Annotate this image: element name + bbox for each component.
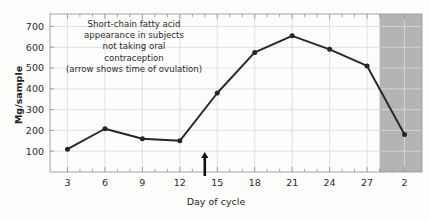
- data-point: [140, 136, 145, 141]
- y-axis-title: Mg/sample: [13, 66, 24, 124]
- data-point: [177, 138, 182, 143]
- chart-canvas: 100200300400500600700 3691215182124272 S…: [0, 0, 430, 220]
- data-point: [215, 91, 220, 96]
- x-tick-label: 9: [139, 177, 145, 188]
- y-tick-label: 600: [26, 42, 44, 53]
- data-point: [65, 147, 70, 152]
- x-tick-label: 18: [249, 177, 261, 188]
- x-tick-label: 27: [361, 177, 373, 188]
- chart-title-line: contraception: [104, 53, 164, 63]
- x-tick-label: 3: [64, 177, 70, 188]
- chart-title-line: appearance in subjects: [84, 30, 184, 40]
- chart-figure: 100200300400500600700 3691215182124272 S…: [0, 0, 430, 220]
- data-point: [252, 50, 257, 55]
- y-tick-label: 100: [26, 146, 44, 157]
- x-tick-label: 2: [402, 177, 408, 188]
- x-tick-label: 6: [102, 177, 108, 188]
- y-tick-label: 200: [26, 125, 44, 136]
- x-tick-label: 15: [211, 177, 223, 188]
- y-tick-label: 300: [26, 104, 44, 115]
- y-axis-tick-labels: 100200300400500600700: [26, 21, 44, 157]
- chart-title-line: Short-chain fatty acid: [88, 19, 181, 29]
- x-tick-label: 24: [324, 177, 336, 188]
- x-tick-label: 21: [286, 177, 298, 188]
- data-point: [365, 63, 370, 68]
- data-point: [290, 33, 295, 38]
- chart-title-line: (arrow shows time of ovulation): [66, 64, 202, 74]
- y-tick-label: 500: [26, 62, 44, 73]
- bottom-axis-ticks: [67, 167, 404, 172]
- shaded-band-next-cycle: [380, 14, 422, 172]
- x-axis-title: Day of cycle: [187, 196, 246, 207]
- y-tick-label: 400: [26, 83, 44, 94]
- data-point: [327, 47, 332, 52]
- data-point: [102, 126, 107, 131]
- x-axis-tick-labels: 3691215182124272: [64, 177, 407, 188]
- y-axis-ticks: [50, 26, 54, 151]
- x-tick-label: 12: [174, 177, 186, 188]
- data-point: [402, 132, 407, 137]
- chart-title-line: not taking oral: [103, 41, 166, 51]
- y-tick-label: 700: [26, 21, 44, 32]
- chart-title-block: Short-chain fatty acidappearance in subj…: [66, 19, 202, 74]
